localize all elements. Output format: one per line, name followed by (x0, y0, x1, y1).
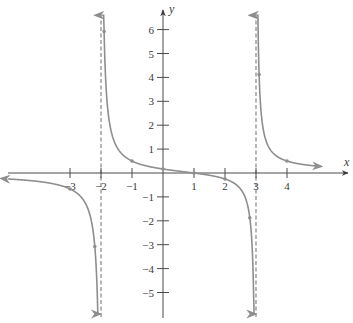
y-tick-label: 2 (149, 119, 155, 131)
y-tick: 1 (149, 143, 170, 155)
y-tick: 5 (149, 48, 170, 60)
y-axis: y 654321−1−2−3−4−5 (142, 2, 175, 318)
x-tick: −2 (95, 168, 107, 192)
y-tick: −5 (142, 287, 169, 299)
data-point (248, 216, 252, 220)
function-curve (8, 15, 321, 314)
x-tick-label: 1 (191, 180, 197, 192)
curve-branch (257, 15, 321, 166)
x-tick: 3 (253, 168, 259, 192)
data-point (93, 245, 97, 249)
y-tick: −4 (142, 263, 169, 275)
x-tick-label: 3 (253, 180, 259, 192)
y-tick-label: −4 (142, 263, 154, 275)
y-tick-label: −2 (142, 215, 154, 227)
y-tick-label: 6 (149, 24, 155, 36)
data-point (285, 159, 289, 163)
y-tick: 4 (149, 71, 170, 83)
y-tick-label: −1 (142, 191, 154, 203)
curve-branch (8, 179, 100, 314)
y-tick-label: 3 (149, 95, 155, 107)
y-tick-label: −5 (142, 287, 154, 299)
x-tick: −1 (126, 168, 138, 192)
rational-function-graph: x −3−2−11234 y 654321−1−2−3−4−5 (0, 0, 353, 323)
x-tick-label: −1 (126, 180, 138, 192)
y-axis-label: y (168, 2, 175, 16)
y-tick: 2 (149, 119, 170, 131)
y-tick: 3 (149, 95, 170, 107)
y-tick: 6 (149, 24, 170, 36)
x-tick-label: 2 (222, 180, 228, 192)
y-tick: −2 (142, 215, 169, 227)
y-tick-label: −3 (142, 239, 154, 251)
data-point (223, 177, 227, 181)
data-point (102, 30, 106, 34)
y-tick-label: 4 (149, 71, 155, 83)
y-tick-label: 5 (149, 48, 155, 60)
y-ticks: 654321−1−2−3−4−5 (142, 24, 169, 299)
x-tick: 4 (284, 168, 290, 192)
x-axis: x −3−2−11234 (8, 155, 350, 192)
asymptotes (101, 14, 256, 318)
x-tick-label: −2 (95, 180, 107, 192)
data-point (161, 167, 165, 171)
data-point (68, 187, 72, 191)
curve-branch (102, 15, 255, 314)
data-point (130, 159, 134, 163)
y-tick: −3 (142, 239, 169, 251)
y-tick: −1 (142, 191, 169, 203)
x-axis-label: x (343, 155, 350, 169)
data-point (192, 171, 196, 175)
y-tick-label: 1 (149, 143, 155, 155)
x-tick-label: 4 (284, 180, 290, 192)
data-point (257, 73, 261, 77)
